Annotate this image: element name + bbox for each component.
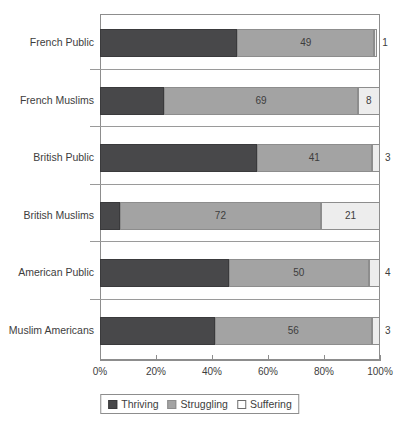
category-label: French Public bbox=[2, 36, 94, 48]
bar-value-label-outside: 1 bbox=[382, 37, 388, 48]
category-label: British Muslims bbox=[2, 209, 94, 221]
chart-legend: Thriving Struggling Suffering bbox=[100, 394, 299, 414]
table-row: 50 bbox=[100, 259, 380, 287]
category-label: American Public bbox=[2, 266, 94, 278]
bar-segment-suffering[interactable] bbox=[372, 317, 380, 345]
x-axis-tick-label: 60% bbox=[258, 366, 278, 377]
x-axis-tick bbox=[380, 355, 381, 361]
bar-value-label: 49 bbox=[300, 38, 311, 48]
bar-value-label: 21 bbox=[345, 211, 356, 221]
legend-item-suffering[interactable]: Suffering bbox=[237, 398, 292, 410]
bar-value-label: 8 bbox=[366, 96, 372, 106]
x-axis-tick bbox=[156, 355, 157, 361]
bar-segment-struggling[interactable]: 56 bbox=[215, 317, 372, 345]
legend-item-struggling[interactable]: Struggling bbox=[168, 398, 228, 410]
legend-label-suffering: Suffering bbox=[250, 398, 292, 410]
x-axis-tick-label: 80% bbox=[314, 366, 334, 377]
x-axis-tick-label: 20% bbox=[146, 366, 166, 377]
x-axis-tick bbox=[100, 355, 101, 361]
bar-segment-suffering[interactable] bbox=[374, 29, 377, 57]
bar-segment-suffering[interactable]: 21 bbox=[321, 202, 380, 230]
group-separator bbox=[90, 241, 380, 242]
table-row: 698 bbox=[100, 87, 380, 115]
table-row: 56 bbox=[100, 317, 380, 345]
bar-segment-thriving[interactable] bbox=[100, 87, 164, 115]
suffering-swatch-icon bbox=[237, 400, 246, 409]
bar-segment-suffering[interactable] bbox=[372, 144, 380, 172]
x-axis-tick-label: 40% bbox=[202, 366, 222, 377]
bar-value-label-outside: 4 bbox=[385, 267, 391, 278]
category-label: French Muslims bbox=[2, 94, 94, 106]
table-row: 41 bbox=[100, 144, 380, 172]
bar-value-label: 72 bbox=[215, 211, 226, 221]
bar-segment-struggling[interactable]: 50 bbox=[229, 259, 369, 287]
thriving-swatch-icon bbox=[108, 400, 117, 409]
bar-segment-thriving[interactable] bbox=[100, 29, 237, 57]
x-axis-tick bbox=[324, 355, 325, 361]
bar-segment-suffering[interactable]: 8 bbox=[358, 87, 380, 115]
x-axis-tick bbox=[268, 355, 269, 361]
stacked-bar-chart: 496984172215056 French PublicFrench Musl… bbox=[0, 0, 400, 424]
bar-segment-struggling[interactable]: 49 bbox=[237, 29, 374, 57]
bar-segment-struggling[interactable]: 69 bbox=[164, 87, 357, 115]
bar-segment-thriving[interactable] bbox=[100, 144, 257, 172]
plot-area-frame bbox=[100, 14, 380, 360]
table-row: 49 bbox=[100, 29, 380, 57]
group-separator bbox=[90, 126, 380, 127]
x-axis-tick bbox=[212, 355, 213, 361]
bar-value-label: 50 bbox=[293, 268, 304, 278]
group-separator bbox=[90, 69, 380, 70]
bar-segment-struggling[interactable]: 72 bbox=[120, 202, 322, 230]
bar-value-label: 56 bbox=[288, 326, 299, 336]
x-axis-tick-label: 100% bbox=[367, 366, 393, 377]
bar-segment-thriving[interactable] bbox=[100, 259, 229, 287]
legend-label-struggling: Struggling bbox=[181, 398, 228, 410]
bar-segment-thriving[interactable] bbox=[100, 202, 120, 230]
struggling-swatch-icon bbox=[168, 400, 177, 409]
table-row: 7221 bbox=[100, 202, 380, 230]
group-separator bbox=[90, 184, 380, 185]
category-label: Muslim Americans bbox=[2, 324, 94, 336]
bar-value-label-outside: 3 bbox=[385, 152, 391, 163]
bar-segment-thriving[interactable] bbox=[100, 317, 215, 345]
legend-item-thriving[interactable]: Thriving bbox=[108, 398, 158, 410]
bar-value-label: 69 bbox=[255, 96, 266, 106]
bar-segment-suffering[interactable] bbox=[369, 259, 380, 287]
x-axis-line bbox=[100, 360, 380, 361]
category-label: British Public bbox=[2, 151, 94, 163]
group-separator bbox=[90, 299, 380, 300]
bar-segment-struggling[interactable]: 41 bbox=[257, 144, 372, 172]
legend-label-thriving: Thriving bbox=[121, 398, 158, 410]
bar-value-label: 41 bbox=[309, 153, 320, 163]
bar-value-label-outside: 3 bbox=[385, 325, 391, 336]
x-axis-tick-label: 0% bbox=[93, 366, 107, 377]
